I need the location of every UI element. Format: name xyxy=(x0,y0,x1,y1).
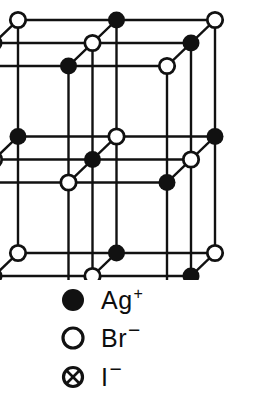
legend-charge-i: − xyxy=(109,357,121,380)
filled-circle-icon xyxy=(55,282,91,318)
legend-item-ag: Ag+ xyxy=(55,282,235,318)
lattice-node-silver xyxy=(60,58,77,75)
crystal-lattice-figure: Ag+ Br− I− xyxy=(0,0,277,401)
lattice-node-silver xyxy=(207,128,224,145)
lattice-node-bromide xyxy=(61,175,76,190)
lattice-node-bromide xyxy=(183,152,198,167)
legend-symbol-i: I xyxy=(101,363,108,391)
legend-item-i: I− xyxy=(55,359,235,395)
legend-symbol-br: Br xyxy=(101,324,127,352)
legend-label-ag: Ag+ xyxy=(101,288,143,313)
legend: Ag+ Br− I− xyxy=(0,278,277,401)
lattice-diagram xyxy=(0,0,277,280)
lattice-node-bromide xyxy=(10,245,25,260)
legend-label-i: I− xyxy=(101,365,122,390)
legend-charge-ag: + xyxy=(134,285,143,302)
open-circle-icon xyxy=(55,320,91,356)
crossed-circle-icon xyxy=(55,359,91,395)
lattice-node-silver xyxy=(108,245,125,262)
lattice-node-bromide xyxy=(207,245,222,260)
lattice-bond-lines xyxy=(0,20,215,280)
lattice-node-bromide xyxy=(10,12,25,27)
legend-charge-br: − xyxy=(128,318,140,341)
lattice-node-bromide xyxy=(207,12,222,27)
lattice-node-silver xyxy=(183,35,200,52)
legend-label-br: Br− xyxy=(101,326,140,351)
lattice-node-bromide xyxy=(0,152,2,167)
lattice-node-silver xyxy=(108,12,125,29)
lattice-node-silver xyxy=(159,174,176,191)
lattice-node-bromide xyxy=(109,129,124,144)
legend-item-br: Br− xyxy=(55,320,235,356)
lattice-node-bromide xyxy=(85,35,100,50)
lattice-node-bromide xyxy=(159,58,174,73)
legend-symbol-ag: Ag xyxy=(101,286,133,314)
lattice-node-silver xyxy=(10,128,27,145)
lattice-node-silver xyxy=(84,151,101,168)
